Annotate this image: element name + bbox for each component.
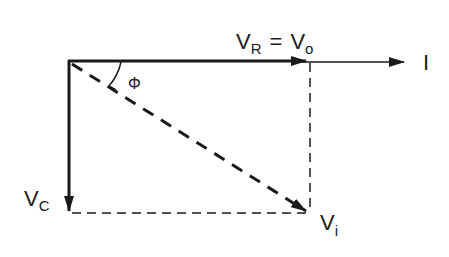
phase-angle-label: Φ <box>128 75 141 92</box>
phase-angle-arc <box>109 62 121 86</box>
vi-label: Vi <box>320 210 338 239</box>
vc-label: VC <box>24 186 50 214</box>
current-label: I <box>423 50 429 75</box>
phasor-diagram: VR=Vo I VC Vi Φ <box>0 0 449 257</box>
vr-vo-label: VR=Vo <box>236 29 313 57</box>
vi-phasor-arrow <box>72 64 306 211</box>
